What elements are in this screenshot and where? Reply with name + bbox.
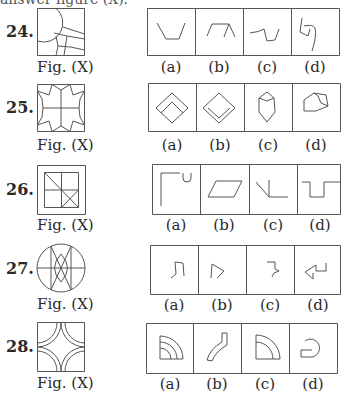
- option-a-label[interactable]: (a): [150, 375, 190, 393]
- answer-options-28: [146, 323, 338, 374]
- option-b-label[interactable]: (b): [202, 296, 242, 314]
- option-c-label[interactable]: (c): [245, 375, 285, 393]
- option-d-label[interactable]: (d): [293, 375, 333, 393]
- figure-x-label: Fig. (X): [37, 136, 94, 154]
- option-a-label[interactable]: (a): [156, 216, 196, 234]
- figure-x-24: [37, 8, 85, 56]
- option-b-label[interactable]: (b): [197, 375, 237, 393]
- question-number: 25.: [6, 98, 34, 117]
- figure-x-label: Fig. (X): [37, 295, 94, 313]
- option-c-label[interactable]: (c): [248, 136, 288, 154]
- option-b-label[interactable]: (b): [200, 136, 240, 154]
- question-number: 24.: [6, 22, 34, 41]
- option-a-label[interactable]: (a): [152, 136, 192, 154]
- option-c-label[interactable]: (c): [250, 296, 290, 314]
- answer-options-24: [147, 8, 340, 56]
- figure-x-28: [37, 322, 85, 372]
- question-number: 27.: [6, 259, 34, 278]
- figure-x-27: [36, 243, 86, 293]
- figure-x-25: [37, 84, 85, 132]
- answer-options-26: [152, 164, 341, 215]
- option-a-label[interactable]: (a): [154, 296, 194, 314]
- option-d-label[interactable]: (d): [295, 58, 335, 76]
- figure-x-label: Fig. (X): [37, 216, 94, 234]
- question-number: 26.: [6, 180, 34, 199]
- cut-off-instruction-text: answer figure (X).: [0, 0, 128, 7]
- question-number: 28.: [6, 337, 34, 356]
- option-a-label[interactable]: (a): [151, 58, 191, 76]
- answer-options-25: [148, 83, 341, 132]
- option-d-label[interactable]: (d): [296, 136, 336, 154]
- option-c-label[interactable]: (c): [247, 58, 287, 76]
- figure-x-label: Fig. (X): [37, 58, 94, 76]
- option-d-label[interactable]: (d): [298, 296, 338, 314]
- option-b-label[interactable]: (b): [199, 58, 239, 76]
- figure-x-label: Fig. (X): [37, 374, 94, 392]
- answer-options-27: [150, 245, 341, 295]
- option-d-label[interactable]: (d): [300, 216, 340, 234]
- figure-x-26: [37, 165, 86, 215]
- option-c-label[interactable]: (c): [253, 216, 293, 234]
- option-b-label[interactable]: (b): [204, 216, 244, 234]
